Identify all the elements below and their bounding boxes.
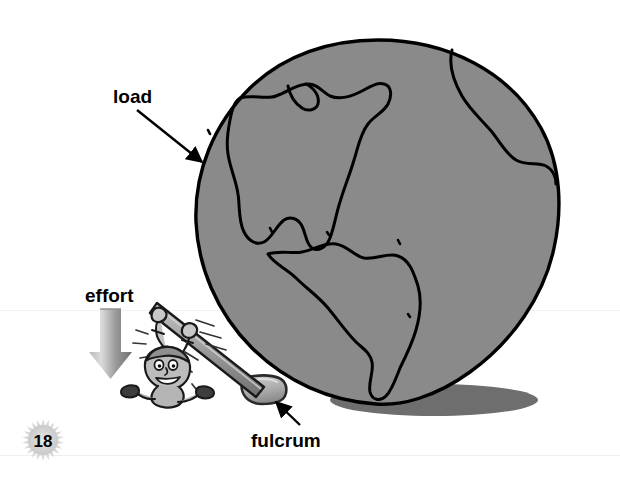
globe-sphere bbox=[196, 40, 559, 404]
island-mark-3 bbox=[398, 240, 400, 244]
fulcrum-pointer-arrow bbox=[276, 402, 300, 425]
page-number-text: 18 bbox=[34, 432, 53, 451]
fulcrum-label-text: fulcrum bbox=[251, 430, 321, 451]
page-number-badge: 18 bbox=[22, 419, 64, 461]
load-pointer-arrow bbox=[137, 110, 202, 162]
island-mark-1 bbox=[270, 228, 272, 232]
earth-globe bbox=[196, 40, 559, 404]
island-mark-5 bbox=[208, 130, 210, 134]
lever-illustration: load effort fulcrum 18 bbox=[0, 0, 620, 481]
island-mark-4 bbox=[408, 314, 410, 317]
effort-label-text: effort bbox=[85, 285, 134, 306]
island-mark-2 bbox=[327, 232, 329, 235]
effort-arrow bbox=[89, 309, 132, 379]
label-effort: effort bbox=[85, 285, 134, 379]
label-load: load bbox=[113, 86, 202, 162]
illustration-page: load effort fulcrum 18 bbox=[0, 0, 620, 481]
label-fulcrum: fulcrum bbox=[251, 402, 321, 451]
load-label-text: load bbox=[113, 86, 152, 107]
